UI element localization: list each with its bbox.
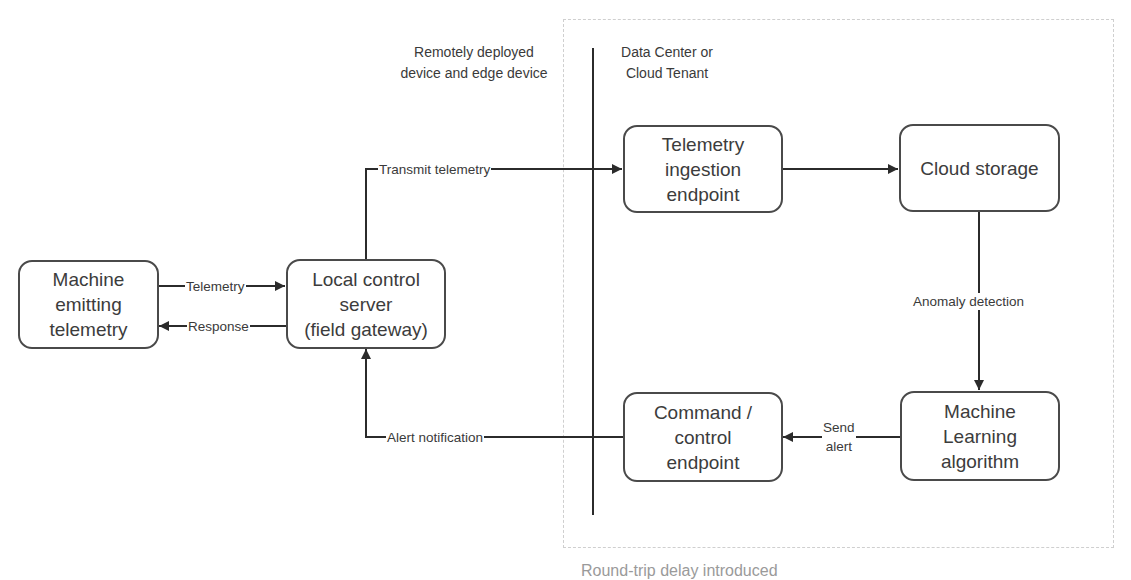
node-machine-line3: telemetry bbox=[49, 317, 127, 342]
node-command-line3: endpoint bbox=[654, 450, 752, 475]
node-telemetry-ingestion-endpoint[interactable]: Telemetry ingestion endpoint bbox=[623, 125, 783, 213]
node-command-line1: Command / bbox=[654, 400, 752, 425]
node-ml-line2: Learning bbox=[941, 424, 1019, 449]
node-machine-line1: Machine bbox=[49, 267, 127, 292]
edge-label-send-alert: Send alert bbox=[822, 418, 856, 456]
node-command-control-endpoint[interactable]: Command / control endpoint bbox=[623, 392, 783, 482]
node-ml-line3: algorithm bbox=[941, 449, 1019, 474]
edge-label-response: Response bbox=[187, 318, 250, 335]
node-ml-line1: Machine bbox=[941, 399, 1019, 424]
node-machine-emitting-telemetry[interactable]: Machine emitting telemetry bbox=[18, 260, 159, 349]
node-machine-learning-algorithm[interactable]: Machine Learning algorithm bbox=[900, 391, 1060, 481]
node-cloud-storage[interactable]: Cloud storage bbox=[899, 124, 1060, 212]
node-ingestion-line2: ingestion bbox=[662, 157, 744, 182]
cloud-zone-label-line2: Cloud Tenant bbox=[626, 65, 708, 81]
edge-zone-label: Remotely deployed device and edge device bbox=[384, 42, 564, 84]
node-local-control-server[interactable]: Local control server (field gateway) bbox=[286, 259, 446, 349]
edge-label-alert-notification: Alert notification bbox=[386, 429, 484, 446]
alert-notification-arrow bbox=[366, 349, 623, 437]
edge-label-telemetry: Telemetry bbox=[185, 278, 246, 295]
send-alert-line2: alert bbox=[826, 439, 852, 454]
node-ingestion-line3: endpoint bbox=[662, 182, 744, 207]
node-machine-line2: emitting bbox=[49, 292, 127, 317]
node-command-line2: control bbox=[654, 425, 752, 450]
cloud-zone-label-line1: Data Center or bbox=[621, 44, 713, 60]
node-gateway-line3: (field gateway) bbox=[304, 317, 428, 342]
edge-label-transmit-telemetry: Transmit telemetry bbox=[378, 161, 491, 178]
edge-zone-label-line2: device and edge device bbox=[400, 65, 547, 81]
round-trip-caption: Round-trip delay introduced bbox=[581, 562, 778, 580]
node-gateway-line1: Local control bbox=[304, 267, 428, 292]
node-storage-line1: Cloud storage bbox=[920, 156, 1038, 181]
edge-zone-label-line1: Remotely deployed bbox=[414, 44, 534, 60]
node-ingestion-line1: Telemetry bbox=[662, 132, 744, 157]
node-gateway-line2: server bbox=[304, 292, 428, 317]
edge-label-anomaly-detection: Anomaly detection bbox=[912, 293, 1025, 310]
cloud-zone-label: Data Center or Cloud Tenant bbox=[612, 42, 722, 84]
send-alert-line1: Send bbox=[823, 420, 855, 435]
transmit-telemetry-arrow bbox=[366, 169, 622, 259]
